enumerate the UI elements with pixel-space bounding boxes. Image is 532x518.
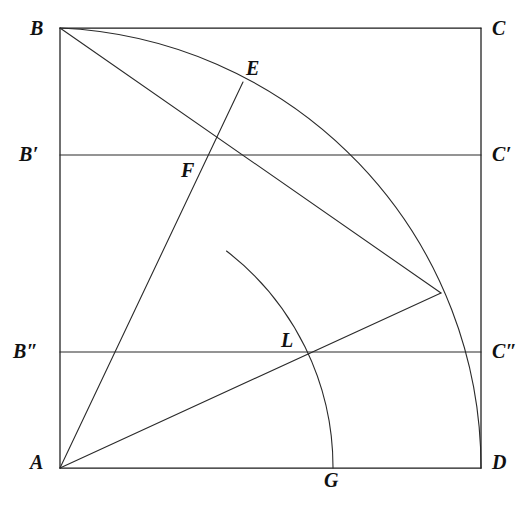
- label-point-c-double-prime: C″: [492, 341, 517, 361]
- label-point-c-prime: C′: [492, 144, 512, 164]
- label-point-b-double-prime: B″: [13, 341, 38, 361]
- label-point-f: F: [181, 160, 194, 180]
- ray-a-to-e: [60, 82, 243, 468]
- label-point-b-prime: B′: [19, 144, 39, 164]
- label-point-d: D: [492, 452, 506, 472]
- label-point-a: A: [30, 452, 43, 472]
- label-point-c: C: [492, 18, 505, 38]
- quadrant-arc-bd: [60, 28, 481, 468]
- inner-arc-g: [227, 251, 334, 468]
- geometry-figure: B C A D B′ C′ B″ C″ E F L G: [0, 0, 532, 518]
- label-point-l: L: [281, 330, 293, 350]
- label-point-e: E: [246, 58, 259, 78]
- label-point-g: G: [324, 470, 338, 490]
- label-point-b: B: [30, 18, 43, 38]
- ray-a-to-arc: [60, 293, 441, 468]
- geometry-canvas: [0, 0, 532, 518]
